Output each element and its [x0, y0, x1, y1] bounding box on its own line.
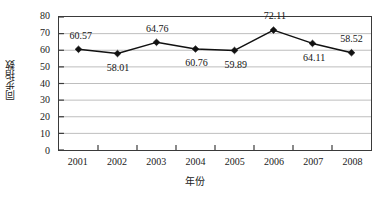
- data-point-label: 60.76: [185, 58, 208, 68]
- x-axis-title: 年份: [0, 176, 390, 188]
- data-point-label: 58.52: [340, 34, 363, 44]
- x-tick-label: 2006: [264, 156, 284, 168]
- data-point-label: 72.11: [264, 11, 286, 21]
- data-point-marker: [270, 27, 277, 34]
- data-point-marker: [153, 39, 160, 46]
- plot-svg: [59, 17, 371, 150]
- y-tick-label: 80: [40, 11, 50, 21]
- x-axis-tick-labels: 20012002200320042005200620072008: [58, 156, 372, 170]
- y-axis-tick-labels: 01020304050607080: [22, 11, 54, 151]
- y-axis-ticks: [59, 17, 64, 150]
- data-point-marker: [231, 47, 238, 54]
- data-point-marker: [75, 46, 82, 53]
- x-tick-label: 2001: [68, 156, 88, 168]
- data-point-marker: [309, 40, 316, 47]
- x-tick-label: 2003: [146, 156, 166, 168]
- plot-area: 60.5758.0164.7660.7659.8972.1164.1158.52: [58, 16, 372, 151]
- x-tick-label: 2002: [107, 156, 127, 168]
- y-tick-label: 50: [40, 62, 50, 72]
- y-tick-label: 60: [40, 45, 50, 55]
- data-point-label: 58.01: [107, 63, 130, 73]
- x-tick-label: 2008: [342, 156, 362, 168]
- x-tick-label: 2007: [303, 156, 323, 168]
- data-point-label: 64.11: [303, 53, 325, 63]
- data-point-label: 64.76: [146, 24, 169, 34]
- y-tick-label: 0: [45, 146, 50, 156]
- gridlines: [59, 34, 371, 134]
- chart-container: 同步指数 01020304050607080 60.5758.0164.7660…: [0, 0, 390, 201]
- data-point-marker: [114, 50, 121, 57]
- data-point-label: 59.89: [224, 60, 247, 70]
- x-tick-label: 2005: [225, 156, 245, 168]
- x-axis-ticks: [98, 145, 332, 150]
- y-tick-label: 70: [40, 28, 50, 38]
- y-axis-title: 同步指数: [2, 44, 20, 116]
- y-tick-label: 40: [40, 79, 50, 89]
- x-tick-label: 2004: [185, 156, 205, 168]
- data-point-marker: [192, 46, 199, 53]
- data-point-label: 60.57: [69, 31, 92, 41]
- y-tick-label: 30: [40, 95, 50, 105]
- y-tick-label: 10: [40, 129, 50, 139]
- y-tick-label: 20: [40, 112, 50, 122]
